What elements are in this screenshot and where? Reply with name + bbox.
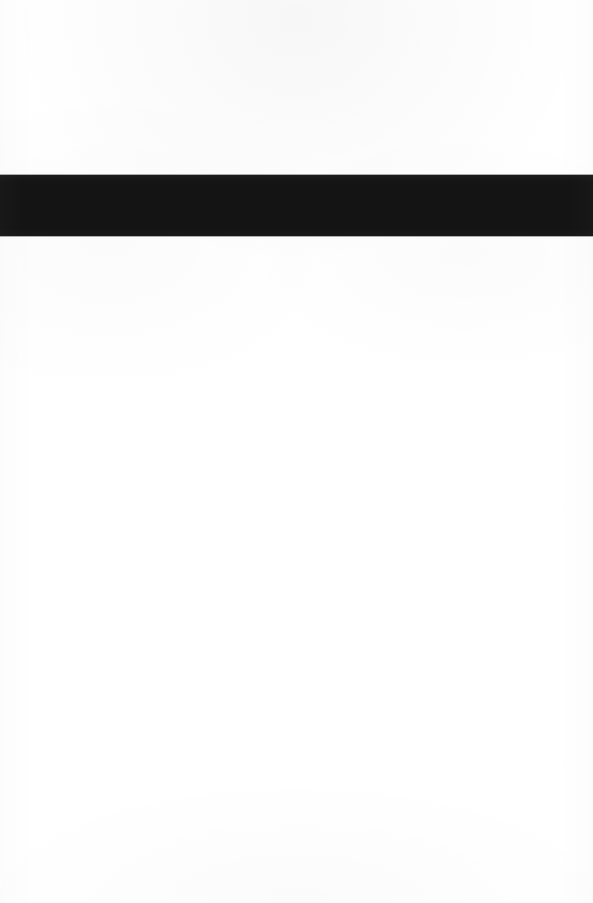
scanned-document-page [0,0,593,903]
blank-region-top-text [0,0,1,1]
redaction-bar-label [0,175,1,176]
blank-content-region-bottom [0,236,593,903]
blank-content-region-top [0,0,593,175]
redaction-bar [0,175,593,236]
blank-region-bottom-text [0,236,1,237]
